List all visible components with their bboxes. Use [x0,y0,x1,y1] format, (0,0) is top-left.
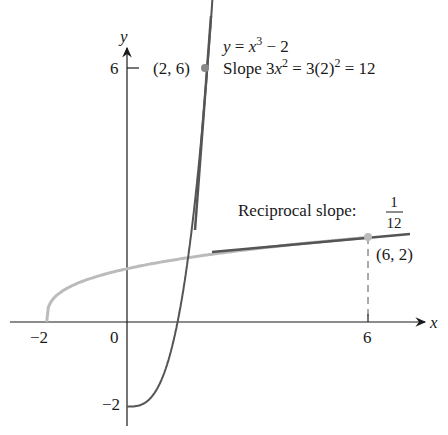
tangent-line-cubic [195,16,211,230]
reciprocal-slope-label: Reciprocal slope: [238,201,357,220]
point-a-label: (2, 6) [153,59,190,78]
axis-x-label: x [429,313,438,332]
reciprocal-numerator: 1 [390,194,398,210]
slope-label: Slope 3x2 = 3(2)2 = 12 [223,56,376,78]
curve-equation: y = x3 − 2 [221,34,289,56]
point-2-6 [201,64,209,72]
tick-label-x-0: 0 [110,328,119,347]
tick-label-x-neg2: −2 [30,328,48,347]
reciprocal-denominator: 12 [387,215,402,231]
point-6-2 [364,233,372,241]
inverse-function-diagram: y x 6 −2 −2 0 6 (2, 6) (6, 2) y = x3 − 2… [0,0,448,435]
tick-label-y-6: 6 [110,59,119,78]
inverse-curve [47,237,368,322]
axis-y-label: y [118,27,128,46]
tick-label-x-6: 6 [363,328,372,347]
point-b-label: (6, 2) [376,245,413,264]
tick-label-y-neg2: −2 [102,395,120,414]
